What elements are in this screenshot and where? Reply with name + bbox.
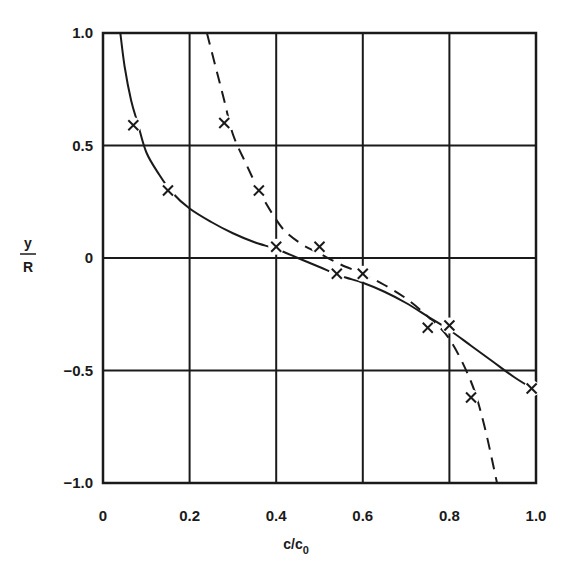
y-axis-label-denominator: R bbox=[23, 259, 33, 275]
x-tick-label: 1.0 bbox=[526, 507, 547, 524]
chart-figure: 00.20.40.60.81.0 1.00.50−0.5−1.0 c/c0 y … bbox=[0, 0, 566, 575]
y-axis-label-numerator: y bbox=[24, 235, 32, 251]
y-tick-label: 0.5 bbox=[72, 137, 93, 154]
x-tick-label: 0.8 bbox=[439, 507, 460, 524]
y-tick-label: −1.0 bbox=[63, 474, 93, 491]
x-tick-label: 0.4 bbox=[266, 507, 288, 524]
y-axis-label: y R bbox=[20, 235, 36, 275]
x-axis-tick-labels: 00.20.40.60.81.0 bbox=[99, 507, 547, 524]
x-axis-label: c/c0 bbox=[283, 536, 309, 556]
x-tick-label: 0.2 bbox=[179, 507, 200, 524]
solid-curve bbox=[120, 33, 536, 391]
x-tick-label: 0.6 bbox=[352, 507, 373, 524]
y-axis-tick-labels: 1.00.50−0.5−1.0 bbox=[63, 24, 93, 491]
y-tick-label: 1.0 bbox=[72, 24, 93, 41]
y-tick-label: −0.5 bbox=[63, 362, 93, 379]
y-tick-label: 0 bbox=[85, 249, 93, 266]
grid-lines bbox=[103, 33, 536, 483]
x-tick-label: 0 bbox=[99, 507, 107, 524]
